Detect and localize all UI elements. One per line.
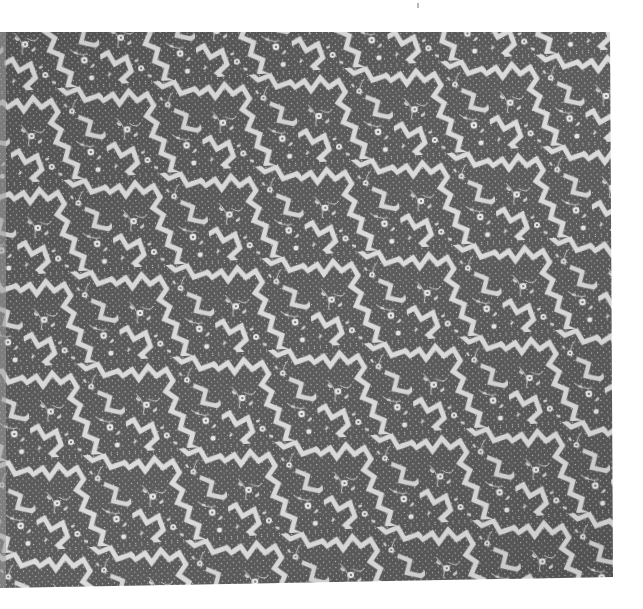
textile-photo (0, 0, 643, 609)
left-edge-strip (0, 32, 6, 588)
textile-surface (0, 0, 643, 609)
image-stage: Patterned textile with jagged meandering… (0, 0, 643, 609)
